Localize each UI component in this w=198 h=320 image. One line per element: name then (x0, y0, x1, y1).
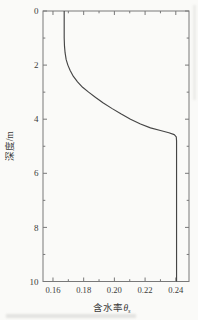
x-axis-label: 含水率θs (93, 302, 131, 314)
water-content-depth-profile (64, 11, 176, 282)
y-tick-label: 2 (34, 60, 39, 70)
depth-profile-chart: 0.160.180.200.220.240246810含水率θs深度/m (0, 0, 198, 320)
depth-moisture-figure: 0.160.180.200.220.240246810含水率θs深度/m (0, 0, 198, 320)
y-tick-label: 8 (34, 223, 39, 233)
x-tick-label: 0.24 (168, 285, 184, 295)
y-tick-label: 10 (30, 277, 40, 287)
y-tick-label: 4 (34, 114, 39, 124)
y-tick-label: 6 (34, 168, 39, 178)
y-tick-label: 0 (34, 6, 39, 16)
x-tick-label: 0.22 (138, 285, 153, 295)
x-tick-label: 0.18 (76, 285, 91, 295)
y-axis-label: 深度/m (4, 131, 15, 162)
x-tick-label: 0.20 (107, 285, 122, 295)
x-tick-label: 0.16 (45, 285, 61, 295)
